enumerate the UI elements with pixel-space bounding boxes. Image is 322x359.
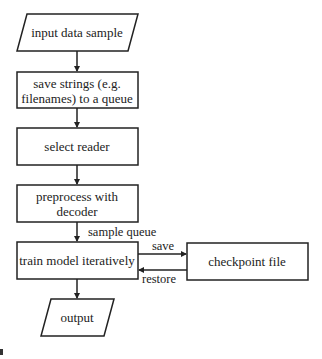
flowchart-canvas: input data sample save strings (e.g. fil…: [0, 0, 322, 359]
edge-label-sample-queue: sample queue: [88, 225, 157, 239]
node-output: output: [41, 299, 114, 336]
node-label-line-2: filenames) to a queue: [21, 91, 133, 106]
node-label: train model iteratively: [19, 253, 135, 268]
edge-label-restore: restore: [142, 272, 176, 286]
edge-label-save: save: [152, 239, 175, 253]
node-checkpoint-file: checkpoint file: [187, 243, 308, 280]
edge-artifact: [0, 349, 3, 355]
node-select-reader: select reader: [17, 128, 138, 165]
node-input-data-sample: input data sample: [17, 14, 138, 51]
node-label-line-1: save strings (e.g.: [33, 76, 120, 91]
node-train-model: train model iteratively: [17, 242, 138, 279]
node-label: output: [60, 310, 94, 325]
node-save-strings: save strings (e.g. filenames) to a queue: [17, 72, 138, 108]
node-preprocess: preprocess with decoder: [17, 185, 138, 222]
node-label: select reader: [44, 139, 110, 154]
node-label: checkpoint file: [208, 254, 286, 269]
node-label: input data sample: [31, 25, 123, 40]
node-label-line-2: decoder: [56, 204, 98, 219]
node-label-line-1: preprocess with: [36, 189, 118, 204]
